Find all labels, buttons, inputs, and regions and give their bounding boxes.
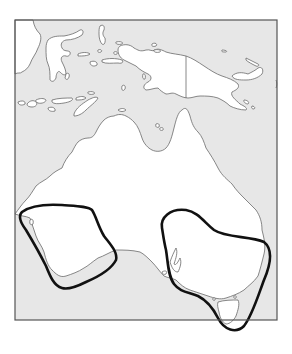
island-shark-bay xyxy=(30,219,34,225)
island-yapen xyxy=(154,50,161,53)
island-lombok xyxy=(18,101,25,105)
island-sumba xyxy=(48,107,55,111)
island-manus xyxy=(222,50,227,52)
island-biak xyxy=(152,43,157,46)
island-flinders xyxy=(234,296,237,299)
island-wetar xyxy=(88,92,95,95)
island-flores-1 xyxy=(36,99,46,104)
island-tanimbar xyxy=(122,85,126,90)
map-figure xyxy=(0,0,292,354)
island-frederik xyxy=(160,128,164,131)
island-dentrecasteaux xyxy=(252,106,255,109)
island-aru xyxy=(143,74,146,79)
island-seram xyxy=(102,59,123,64)
island-small-1 xyxy=(114,52,118,55)
island-king xyxy=(213,298,216,301)
island-buton xyxy=(65,73,69,79)
island-sula xyxy=(98,50,102,53)
island-buru xyxy=(90,61,97,66)
island-kangaroo xyxy=(162,271,167,274)
island-groote-eylandt xyxy=(156,124,160,128)
island-melville xyxy=(118,109,126,112)
island-obi xyxy=(116,42,123,45)
map-canvas xyxy=(0,0,292,354)
